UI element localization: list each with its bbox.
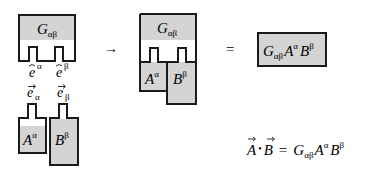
vector-arrow-icon bbox=[267, 137, 275, 141]
dot-product-formula: A•B=GαβAαBβ bbox=[246, 137, 345, 160]
basis-e-alpha-down: e bbox=[27, 85, 33, 100]
metric-block-left: Gαβ bbox=[19, 15, 75, 61]
basis-lower-beta: e β bbox=[57, 85, 70, 103]
vector-b-block: Bβ bbox=[50, 104, 78, 165]
equals-sign: = bbox=[226, 41, 234, 57]
basis-e-alpha-up-index: α bbox=[37, 61, 42, 71]
result-expression: GαβAαBβ bbox=[263, 41, 314, 61]
basis-e-alpha-down-index: α bbox=[35, 92, 40, 102]
vector-arrow-icon bbox=[248, 137, 256, 141]
combined-slots bbox=[140, 48, 196, 62]
basis-e-beta-up: e bbox=[56, 65, 62, 80]
tensor-contraction-diagram: Gαβ e α e β e α e β Aα Bβ → bbox=[0, 0, 373, 173]
basis-e-beta-down-index: β bbox=[65, 92, 70, 102]
result-box: GαβAαBβ bbox=[258, 33, 326, 66]
basis-upper-alpha: e α bbox=[29, 61, 42, 80]
basis-upper-beta: e β bbox=[56, 61, 69, 80]
arrow-right-icon: → bbox=[104, 41, 118, 56]
basis-e-beta-down: e bbox=[57, 85, 63, 100]
formula-text: A•B=GαβAαBβ bbox=[246, 140, 345, 160]
vector-a-block: Aα bbox=[19, 104, 46, 153]
combined-block: Gαβ Aα Bβ bbox=[140, 14, 196, 104]
basis-e-beta-up-index: β bbox=[64, 61, 69, 71]
basis-e-alpha-up: e bbox=[29, 65, 35, 80]
basis-lower-alpha: e α bbox=[27, 85, 40, 103]
